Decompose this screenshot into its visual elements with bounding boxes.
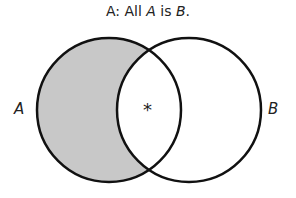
label-b: B — [268, 100, 278, 118]
label-a: A — [14, 100, 24, 118]
asterisk-marker-icon: * — [143, 99, 152, 120]
